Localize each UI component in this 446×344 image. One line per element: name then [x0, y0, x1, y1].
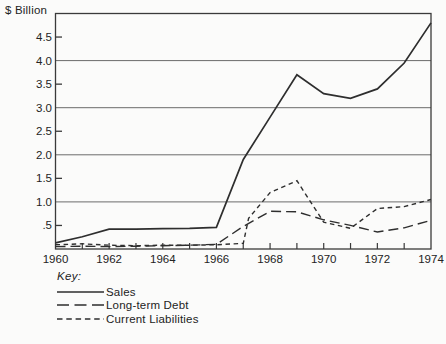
x-tick-label: 1970 — [311, 253, 337, 265]
y-tick-label: 1.0 — [36, 196, 52, 208]
chart-legend: Key: Sales Long-term Debt Current Liabil… — [57, 270, 199, 326]
legend-item-long-term-debt: Long-term Debt — [57, 299, 199, 313]
long-term-debt-line-sample-icon — [57, 301, 104, 309]
sales-line-sample-icon — [57, 288, 104, 296]
legend-item-sales: Sales — [57, 285, 199, 299]
x-tick-label: 1962 — [96, 253, 122, 265]
series-line-current-liabilities — [56, 181, 432, 246]
y-tick-label: 2.5 — [36, 125, 52, 137]
x-tick-label: 1960 — [43, 253, 69, 265]
y-tick-label: 2.0 — [36, 149, 52, 161]
x-tick-label: 1968 — [257, 253, 283, 265]
y-tick-label: 3.0 — [36, 102, 52, 114]
x-tick-label: 1964 — [150, 253, 176, 265]
legend-heading: Key: — [57, 270, 199, 282]
y-tick-label: 1.5 — [36, 172, 52, 184]
legend-label-current-liabilities: Current Liabilities — [106, 313, 199, 325]
legend-item-current-liabilities: Current Liabilities — [57, 312, 199, 326]
y-tick-label: 4.0 — [36, 55, 52, 67]
x-tick-label: 1974 — [418, 253, 444, 265]
current-liabilities-line-sample-icon — [57, 315, 104, 323]
x-tick-label: 1972 — [365, 253, 391, 265]
legend-label-sales: Sales — [106, 286, 136, 298]
y-tick-label: 4.5 — [36, 31, 52, 43]
chart-page: $ Billion 4.54.03.53.02.52.01.51.0.51960… — [0, 0, 446, 344]
legend-label-long-term-debt: Long-term Debt — [106, 299, 189, 311]
y-tick-label: .5 — [42, 219, 52, 231]
x-tick-label: 1966 — [204, 253, 230, 265]
plot-frame — [56, 14, 432, 250]
y-tick-label: 3.5 — [36, 78, 52, 90]
